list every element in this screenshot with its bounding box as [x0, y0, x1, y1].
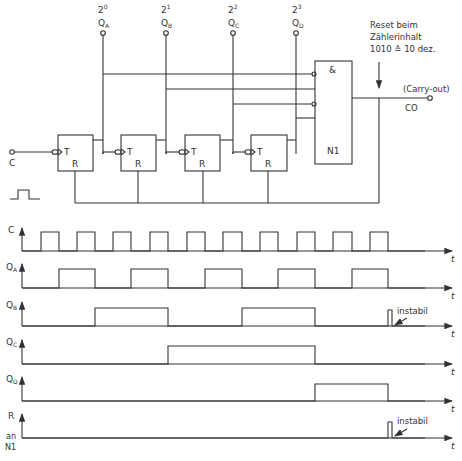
timing-label-c: C — [8, 226, 14, 235]
timing-label-r-n1: N1 — [5, 444, 16, 452]
output-label-qb: QB — [161, 19, 172, 28]
flipflop-b — [121, 135, 166, 203]
instabil-arrow-r — [395, 429, 407, 436]
reset-note-line-2: Zählerinhalt — [370, 32, 422, 43]
carry-out-terminal — [428, 96, 433, 101]
timing-label-r: R — [8, 412, 14, 421]
timing-label-qb: QB — [6, 301, 17, 310]
axis-t-qb: t — [451, 330, 455, 339]
ff-c-t-label: T — [191, 148, 197, 157]
circuit-and-timing-diagram — [0, 0, 462, 461]
timing-label-qa: QA — [6, 263, 17, 272]
instabil-label-r: instabil — [397, 416, 428, 427]
axis-t-qc: t — [451, 368, 455, 377]
ff-c-r-label: R — [199, 160, 205, 169]
waveform-r — [22, 422, 425, 438]
carry-out-short: CO — [405, 103, 418, 114]
weight-label-b: 21 — [161, 6, 171, 15]
weight-label-c: 22 — [228, 6, 238, 15]
instabil-arrow-qb — [395, 318, 407, 325]
waveform-qc — [22, 346, 425, 364]
pulse-symbol — [10, 190, 40, 199]
nand-input-lines — [103, 74, 315, 118]
gate-name: N1 — [327, 147, 339, 156]
waveform-qa — [22, 269, 425, 288]
clock-input-terminal — [10, 150, 14, 154]
ff-b-r-label: R — [135, 160, 141, 169]
output-tap-lines — [103, 34, 296, 154]
clock-edge-inputs — [52, 150, 251, 155]
timing-label-qc: QC — [6, 338, 17, 347]
waveform-qd — [22, 384, 425, 401]
output-label-qd: QD — [292, 19, 304, 28]
axis-t-qd: t — [451, 405, 455, 414]
ff-d-r-label: R — [265, 160, 271, 169]
axis-t-r: t — [451, 442, 455, 451]
ff-a-t-label: T — [64, 148, 70, 157]
waveform-c — [22, 232, 425, 251]
axis-t-c: t — [451, 255, 455, 264]
clock-input-label: C — [9, 159, 15, 168]
timing-label-r-an: an — [6, 433, 16, 441]
carry-out-label: (Carry-out) — [403, 84, 450, 95]
output-label-qa: QA — [98, 19, 109, 28]
output-label-qc: QC — [228, 19, 239, 28]
flipflop-c — [185, 135, 233, 203]
timing-label-qd: QD — [6, 375, 18, 384]
flipflop-a — [58, 135, 103, 203]
flipflop-d — [251, 135, 296, 203]
weight-label-a: 20 — [98, 6, 108, 15]
ff-a-r-label: R — [72, 160, 78, 169]
waveform-qb — [22, 308, 425, 326]
instabil-label-qb: instabil — [397, 306, 428, 317]
reset-note-line-3: 1010 ≙ 10 dez. — [370, 44, 435, 55]
gate-symbol: & — [329, 66, 336, 75]
weight-label-d: 23 — [292, 6, 302, 15]
output-terminals — [101, 31, 299, 36]
ff-b-t-label: T — [127, 148, 133, 157]
timing-axes — [22, 228, 452, 438]
ff-d-t-label: T — [257, 148, 263, 157]
axis-t-qa: t — [451, 292, 455, 301]
reset-note-line-1: Reset beim — [370, 20, 418, 31]
